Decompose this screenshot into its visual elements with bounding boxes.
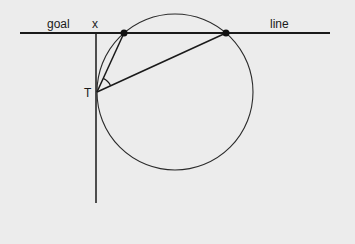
- goalpost-near-dot: [121, 30, 128, 37]
- tangent-circle: [97, 14, 253, 170]
- angle-arc: [103, 78, 110, 85]
- label-x: x: [92, 18, 98, 30]
- label-line: line: [270, 18, 289, 30]
- line-T-to-far-post: [97, 33, 226, 92]
- line-T-to-near-post: [97, 33, 124, 92]
- diagram-canvas: goal x line T: [0, 0, 355, 244]
- geometry-figure: [0, 0, 355, 244]
- label-goal: goal: [47, 18, 70, 30]
- goalpost-far-dot: [223, 30, 230, 37]
- label-T: T: [84, 87, 91, 99]
